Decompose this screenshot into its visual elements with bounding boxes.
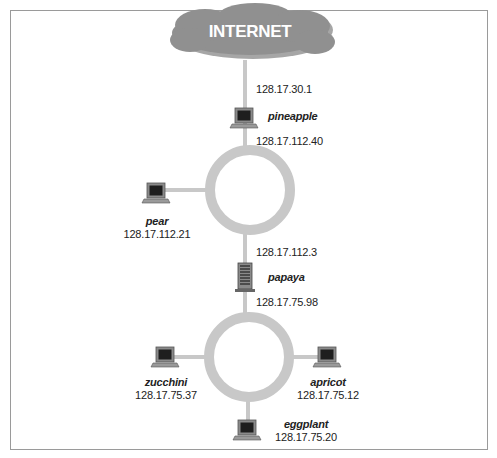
- eggplant-ip: 128.17.75.20: [275, 431, 337, 443]
- pear-computer-icon: [142, 183, 170, 203]
- zucchini-ip: 128.17.75.37: [135, 389, 197, 401]
- eggplant-hostname: eggplant: [284, 418, 328, 430]
- papaya-ip-lower: 128.17.75.98: [256, 296, 318, 308]
- network-ring-lower: [209, 317, 289, 397]
- papaya-server-icon: [235, 263, 255, 292]
- network-diagram: [0, 0, 497, 458]
- pineapple-computer-icon: [230, 108, 258, 128]
- pineapple-hostname: pineapple: [268, 110, 318, 122]
- eggplant-computer-icon: [233, 420, 261, 440]
- pear-hostname: pear: [146, 215, 168, 227]
- pineapple-ip-external: 128.17.30.1: [256, 83, 312, 95]
- zucchini-hostname: zucchini: [145, 376, 187, 388]
- network-ring-upper: [210, 150, 290, 230]
- pineapple-ip-internal: 128.17.112.40: [256, 135, 323, 147]
- apricot-hostname: apricot: [310, 376, 345, 388]
- internet-cloud-label: INTERNET: [209, 22, 292, 42]
- papaya-ip-upper: 128.17.112.3: [256, 246, 317, 258]
- papaya-hostname: papaya: [268, 271, 305, 283]
- pear-ip: 128.17.112.21: [124, 228, 191, 240]
- apricot-ip: 128.17.75.12: [297, 389, 359, 401]
